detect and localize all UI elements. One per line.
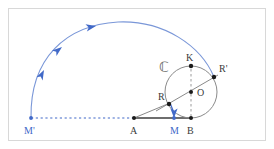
figure-frame xyxy=(9,9,266,141)
point-label-a: A xyxy=(130,125,138,136)
point-label-m: M xyxy=(170,125,179,136)
point-dot-k xyxy=(189,64,193,68)
point-dot-o xyxy=(189,90,193,94)
geometry-figure-panel: ℂ M' A M B O K R' R xyxy=(0,0,274,149)
point-label-o: O xyxy=(197,87,204,98)
point-label-b: B xyxy=(187,125,194,136)
geometry-diagram: ℂ M' A M B O K R' R xyxy=(0,0,274,149)
point-dot-r xyxy=(167,102,171,106)
point-label-rprime: R' xyxy=(219,63,228,74)
point-dot-a xyxy=(132,116,136,120)
point-label-mprime: M' xyxy=(24,125,35,136)
point-dot-m xyxy=(172,116,176,120)
point-label-r: R xyxy=(158,91,165,102)
circle-set-label: ℂ xyxy=(159,59,169,75)
point-dot-b xyxy=(189,116,193,120)
point-label-k: K xyxy=(186,52,194,63)
point-dot-mprime xyxy=(29,116,33,120)
point-dot-rprime xyxy=(212,75,216,79)
